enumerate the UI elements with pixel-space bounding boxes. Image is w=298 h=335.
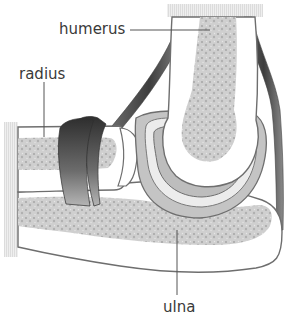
ulna-label: ulna <box>163 300 195 315</box>
humerus-cut-edge <box>167 4 263 17</box>
humerus-label: humerus <box>59 22 125 37</box>
radius-label: radius <box>19 67 65 82</box>
elbow-joint-diagram <box>0 0 298 335</box>
forearm-cut-edge <box>4 122 18 257</box>
